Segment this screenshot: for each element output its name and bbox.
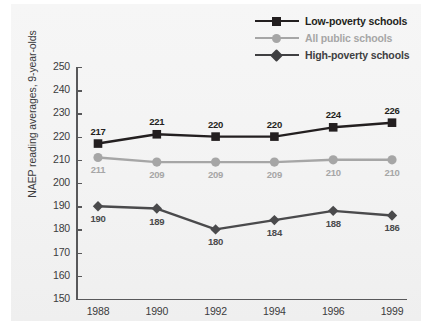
legend-item-low-poverty-schools[interactable]: Low-poverty schools [255, 13, 430, 28]
legend-swatch-low-poverty-schools [255, 14, 299, 28]
x-axis-tick-label: 1988 [75, 305, 121, 317]
x-axis-tick-labels: 198819901992199419961999 [76, 305, 407, 321]
data-point-label: 209 [257, 169, 291, 180]
y-axis-tick-label: 240 [28, 84, 70, 95]
y-axis-tick-labels: 250240230220210200190180170160150 [28, 67, 70, 300]
legend-item-high-poverty-schools[interactable]: High-poverty schools [255, 47, 430, 62]
square-data-point[interactable] [94, 139, 103, 148]
y-axis-tick-label: 180 [28, 223, 70, 234]
data-point-label: 210 [316, 167, 350, 178]
data-point-label: 188 [316, 218, 350, 229]
data-point-label: 220 [257, 119, 291, 130]
y-axis-tick-label: 200 [28, 177, 70, 188]
y-axis-tick-label: 190 [28, 200, 70, 211]
diamond-data-point[interactable] [328, 206, 338, 216]
diamond-data-point[interactable] [210, 224, 220, 234]
x-axis-tick-label: 1996 [310, 305, 356, 317]
diamond-data-point[interactable] [387, 210, 397, 220]
data-point-label: 221 [140, 116, 174, 127]
circle-data-point[interactable] [270, 158, 279, 167]
circle-data-point[interactable] [93, 153, 102, 162]
square-data-point[interactable] [270, 132, 279, 141]
square-data-point[interactable] [329, 123, 338, 132]
data-point-label: 180 [199, 236, 233, 247]
data-point-label: 209 [199, 169, 233, 180]
x-axis-tick-label: 1990 [134, 305, 180, 317]
chart-legend: Low-poverty schools All public schools H… [255, 13, 430, 64]
legend-label-high-poverty-schools: High-poverty schools [299, 49, 409, 61]
y-axis-tick-label: 160 [28, 270, 70, 281]
data-point-label: 224 [316, 109, 350, 120]
y-axis-tick-label: 220 [28, 131, 70, 142]
circle-data-point[interactable] [329, 155, 338, 164]
circle-marker-icon [272, 34, 281, 43]
diamond-marker-icon [270, 49, 283, 62]
y-axis-tick-label: 250 [28, 61, 70, 72]
chart-screenshot: Low-poverty schools All public schools H… [0, 0, 432, 336]
square-data-point[interactable] [211, 132, 220, 141]
data-point-label: 217 [81, 126, 115, 137]
legend-label-all-public-schools: All public schools [299, 32, 392, 44]
data-point-label: 220 [199, 119, 233, 130]
y-axis-tick-label: 210 [28, 154, 70, 165]
circle-data-point[interactable] [152, 158, 161, 167]
series-lines [76, 67, 406, 299]
square-marker-icon [272, 17, 281, 26]
diamond-data-point[interactable] [269, 215, 279, 225]
legend-swatch-all-public-schools [255, 31, 299, 45]
x-axis-tick-label: 1992 [193, 305, 239, 317]
data-point-label: 226 [375, 105, 409, 116]
series-line-circle [98, 157, 392, 162]
data-point-label: 186 [375, 222, 409, 233]
y-axis-tick-label: 150 [28, 293, 70, 304]
data-point-label: 210 [375, 167, 409, 178]
legend-swatch-high-poverty-schools [255, 48, 299, 62]
diamond-data-point[interactable] [93, 201, 103, 211]
circle-data-point[interactable] [387, 155, 396, 164]
data-point-label: 184 [257, 227, 291, 238]
data-point-label: 211 [81, 164, 115, 175]
plot-area: 2172212202202242262112092092092102101901… [76, 67, 406, 299]
data-point-label: 190 [81, 213, 115, 224]
data-point-label: 209 [140, 169, 174, 180]
x-axis-tick-label: 1994 [251, 305, 297, 317]
circle-data-point[interactable] [211, 158, 220, 167]
y-axis-tick-label: 230 [28, 107, 70, 118]
y-axis-tick-label: 170 [28, 247, 70, 258]
legend-label-low-poverty-schools: Low-poverty schools [299, 15, 407, 27]
data-point-label: 189 [140, 216, 174, 227]
legend-item-all-public-schools[interactable]: All public schools [255, 30, 430, 45]
square-data-point[interactable] [388, 118, 397, 127]
x-axis-tick-label: 1999 [369, 305, 415, 317]
diamond-data-point[interactable] [152, 203, 162, 213]
square-data-point[interactable] [153, 130, 162, 139]
